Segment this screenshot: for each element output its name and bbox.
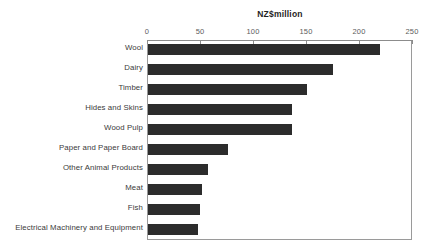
bar-row: Dairy (0, 60, 434, 80)
bar-row: Meat (0, 180, 434, 200)
bar-rows: WoolDairyTimberHides and SkinsWood PulpP… (0, 40, 434, 240)
category-label: Fish (128, 203, 143, 212)
bar (148, 184, 202, 195)
x-axis-tick-label: 50 (196, 27, 205, 36)
bar-row: Electrical Machinery and Equipment (0, 220, 434, 240)
category-label: Paper and Paper Board (59, 143, 143, 152)
bar (148, 124, 292, 135)
bar-row: Other Animal Products (0, 160, 434, 180)
x-axis-tick-label: 200 (352, 27, 365, 36)
bar (148, 204, 200, 215)
bar (148, 104, 292, 115)
bar (148, 164, 208, 175)
bar-row: Wool (0, 40, 434, 60)
bar (148, 224, 198, 235)
bar (148, 144, 228, 155)
category-label: Meat (125, 183, 143, 192)
bar-chart: NZ$million 050100150200250 WoolDairyTimb… (0, 0, 434, 250)
x-axis-tick-label: 150 (299, 27, 312, 36)
x-axis-title: NZ$million (147, 9, 413, 19)
category-label: Timber (118, 83, 143, 92)
bar-row: Fish (0, 200, 434, 220)
category-label: Hides and Skins (85, 103, 143, 112)
x-axis-tick-label: 100 (246, 27, 259, 36)
category-label: Other Animal Products (63, 163, 143, 172)
category-label: Electrical Machinery and Equipment (15, 223, 143, 232)
bar-row: Wood Pulp (0, 120, 434, 140)
x-axis-tick-label: 250 (405, 27, 418, 36)
category-label: Dairy (124, 63, 143, 72)
bar-row: Timber (0, 80, 434, 100)
bar (148, 84, 307, 95)
bar (148, 64, 333, 75)
x-axis-tick-label: 0 (145, 27, 149, 36)
category-label: Wood Pulp (104, 123, 143, 132)
category-label: Wool (125, 43, 143, 52)
bar (148, 44, 380, 55)
bar-row: Paper and Paper Board (0, 140, 434, 160)
bar-row: Hides and Skins (0, 100, 434, 120)
